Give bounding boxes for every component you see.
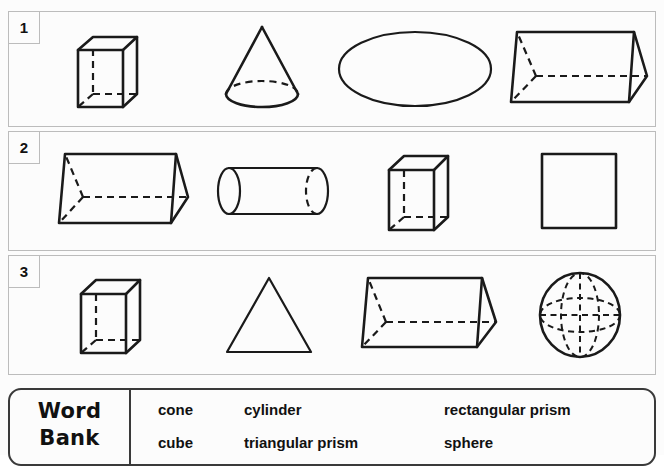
word-bank-term-cube[interactable]: cube [131, 434, 244, 451]
shape-cell-triangular-prism[interactable] [495, 12, 655, 126]
shape-strip-row-2 [43, 132, 655, 250]
word-bank-terms: cone cylinder rectangular prism cube tri… [131, 390, 654, 464]
shape-strip-row-1 [43, 12, 655, 126]
cube-icon [71, 23, 161, 115]
shape-cell-cube[interactable] [43, 12, 189, 126]
shape-cell-square[interactable] [502, 132, 655, 250]
cylinder-icon [212, 156, 334, 226]
word-bank: Word Bank cone cylinder rectangular pris… [8, 388, 656, 466]
shape-cell-triangle[interactable] [194, 256, 345, 374]
cone-icon [215, 21, 309, 117]
word-bank-label-line-2: Bank [39, 425, 99, 452]
cube-icon [382, 143, 470, 239]
shape-cell-cone[interactable] [189, 12, 335, 126]
word-bank-row: cone cylinder rectangular prism [131, 401, 654, 434]
word-bank-label-line-1: Word [38, 398, 101, 425]
triangular-prism-icon [45, 146, 195, 236]
shape-cell-triangular-prism[interactable] [43, 132, 196, 250]
shape-cell-cylinder[interactable] [196, 132, 349, 250]
row-number-badge-1: 1 [8, 11, 40, 44]
question-row-1: 1 [8, 11, 656, 127]
shape-cell-cube[interactable] [349, 132, 502, 250]
word-bank-term-triangular-prism[interactable]: triangular prism [244, 434, 444, 451]
word-bank-term-cone[interactable]: cone [131, 401, 244, 418]
question-row-2: 2 [8, 131, 656, 251]
word-bank-label: Word Bank [10, 390, 131, 464]
word-bank-term-cylinder[interactable]: cylinder [244, 401, 444, 418]
triangle-icon [223, 274, 315, 356]
shape-cell-triangular-prism[interactable] [344, 256, 504, 374]
question-row-3: 3 [8, 255, 656, 375]
square-icon [539, 151, 619, 231]
row-number-badge-3: 3 [8, 255, 40, 288]
triangular-prism-icon [495, 23, 655, 115]
sphere-icon [536, 269, 624, 361]
shape-cell-cube[interactable] [43, 256, 194, 374]
shape-strip-row-3 [43, 256, 655, 374]
cube-icon [74, 268, 162, 362]
shape-cell-oval[interactable] [335, 12, 495, 126]
word-bank-term-rectangular-prism[interactable]: rectangular prism [444, 401, 654, 418]
word-bank-term-sphere[interactable]: sphere [444, 434, 654, 451]
shape-cell-sphere[interactable] [504, 256, 655, 374]
word-bank-row: cube triangular prism sphere [131, 434, 654, 466]
row-number-badge-2: 2 [8, 131, 40, 164]
ellipse-icon [335, 27, 495, 111]
triangular-prism-icon [344, 270, 504, 360]
